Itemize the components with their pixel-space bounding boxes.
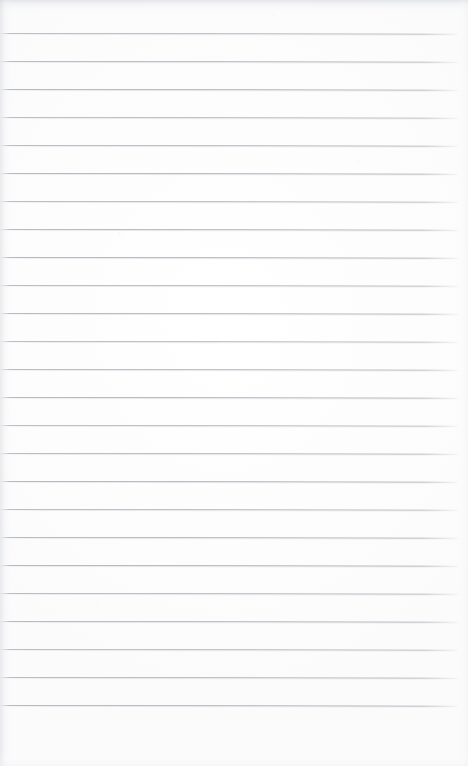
rule-line <box>1 257 459 259</box>
speck-upper-left <box>118 232 121 235</box>
rule-line <box>1 593 459 595</box>
rule-line <box>1 61 459 63</box>
rule-line <box>1 145 459 147</box>
rule-line <box>1 117 459 119</box>
ruled-lines <box>0 0 468 766</box>
speck-mid-right <box>392 498 394 500</box>
rule-line <box>1 33 459 35</box>
rule-line <box>1 621 459 623</box>
rule-line <box>1 313 459 315</box>
rule-line <box>1 705 459 707</box>
speck-lower-left <box>96 602 98 604</box>
rule-line <box>1 677 459 679</box>
rule-line <box>1 369 459 371</box>
scanned-page <box>0 0 468 766</box>
rule-line <box>1 341 459 343</box>
speck-upper-right <box>357 160 360 163</box>
rule-line <box>1 509 459 511</box>
rule-line <box>1 649 459 651</box>
rule-line <box>1 89 459 91</box>
rule-line <box>1 397 459 399</box>
rule-line <box>1 173 459 175</box>
rule-line <box>1 425 459 427</box>
rule-line <box>1 565 459 567</box>
rule-line <box>1 201 459 203</box>
rule-line <box>1 229 459 231</box>
rule-line <box>1 453 459 455</box>
rule-line <box>1 285 459 287</box>
rule-line <box>1 481 459 483</box>
rule-line <box>1 537 459 539</box>
speck-top-center <box>272 14 275 17</box>
